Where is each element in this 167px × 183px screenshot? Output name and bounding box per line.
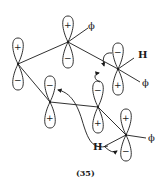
orbital-f-bottom-sign: − [122,147,130,156]
phenyl-label-right: ϕ [142,78,149,88]
orbital-d-top-sign: − [46,81,54,90]
curved-arrow-upper [103,53,112,66]
figure-caption: (35) [76,169,95,177]
orbital-a-bottom-sign: − [14,76,22,85]
bond-d-e [50,102,98,107]
bond-f-h [105,135,126,146]
bond-b-c [68,42,118,69]
curved-arrow-small [95,73,100,82]
orbital-diagram [0,0,167,183]
orbital-e-top-sign: − [94,86,102,95]
orbital-e-bottom-sign: + [94,119,102,128]
orbital-c-bottom-sign: + [114,81,122,90]
orbital-d-bottom-sign: + [46,114,54,123]
orbital-a-top-sign: + [14,43,22,52]
orbital-b-top-sign: + [64,21,72,30]
hydrogen-label-bottom: H [93,142,102,152]
orbital-b-bottom-sign: − [64,54,72,63]
orbital-c-top-sign: − [114,48,122,57]
orbital-f-top-sign: + [122,114,130,123]
hydrogen-label-right: H [138,50,147,60]
bond-f-phi [126,135,146,138]
bond-a-b [18,42,68,64]
phenyl-label-top: ϕ [88,21,95,31]
phenyl-label-bottom: ϕ [148,133,155,143]
